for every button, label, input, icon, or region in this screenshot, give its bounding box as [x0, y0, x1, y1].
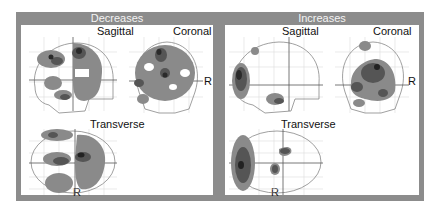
panel-decreases: Decreases Sagittal Coronal R Transverse … [16, 12, 218, 201]
coronal-view [129, 37, 205, 115]
panel-body: Sagittal Coronal R Transverse R [225, 25, 419, 195]
glass-brain-figure: Decreases Sagittal Coronal R Transverse … [16, 12, 424, 201]
sagittal-view [29, 37, 119, 115]
panel-title: Decreases [16, 12, 218, 25]
panel-increases: Increases Sagittal Coronal R Transverse … [220, 12, 424, 201]
transverse-view [229, 129, 325, 197]
panel-body: Sagittal Coronal R Transverse R [21, 25, 213, 195]
panel-title: Increases [220, 12, 424, 25]
coronal-r-label: R [204, 76, 212, 87]
coronal-view [335, 37, 411, 115]
sagittal-label: Sagittal [282, 26, 319, 37]
sagittal-label: Sagittal [97, 26, 134, 37]
transverse-view [29, 129, 119, 197]
coronal-label: Coronal [173, 26, 212, 37]
sagittal-view [229, 37, 325, 115]
coronal-label: Coronal [373, 26, 412, 37]
